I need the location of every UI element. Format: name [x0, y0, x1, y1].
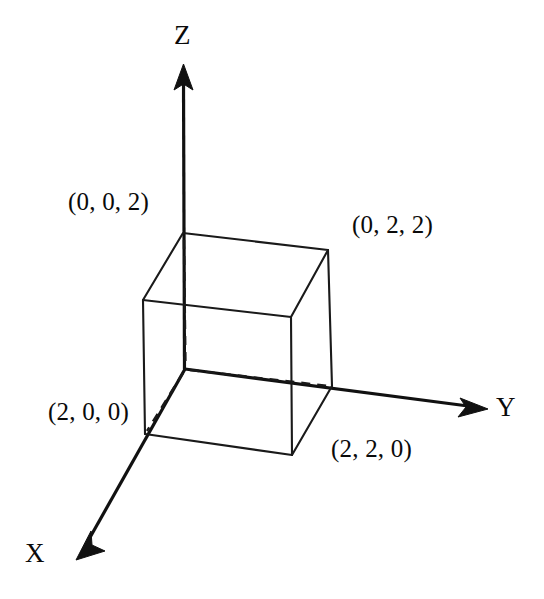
cube-edge-left-vertical — [143, 300, 145, 434]
z-axis-label: Z — [174, 22, 191, 49]
cube-diagram-svg — [0, 0, 544, 599]
y-axis — [185, 369, 488, 417]
y-axis-label: Y — [496, 394, 516, 421]
vertex-label-200: (2, 0, 0) — [48, 399, 129, 424]
y-axis-arrowhead — [458, 398, 488, 417]
cube-top-face — [143, 233, 328, 317]
axes-group — [76, 64, 488, 560]
cube-visible-edges-group — [143, 233, 332, 455]
z-axis — [174, 64, 193, 369]
cube-diagram-canvas: Z Y X (0, 0, 2) (0, 2, 2) (2, 0, 0) (2, … — [0, 0, 544, 599]
x-axis-arrowhead — [76, 531, 105, 560]
hidden-edge-bottom-back-right — [190, 370, 329, 386]
cube-edge-right-vertical — [328, 250, 332, 386]
vertex-label-002: (0, 0, 2) — [68, 189, 149, 214]
vertex-label-220: (2, 2, 0) — [331, 436, 412, 461]
cube-edge-bottom-front-left — [145, 434, 292, 455]
cube-hidden-edges-group — [147, 240, 329, 431]
x-axis-label: X — [25, 540, 45, 567]
x-axis-line — [88, 369, 185, 541]
cube-edge-front-vertical — [291, 317, 292, 455]
cube-edge-bottom-front-right — [292, 386, 332, 455]
vertex-label-022: (0, 2, 2) — [352, 212, 433, 237]
